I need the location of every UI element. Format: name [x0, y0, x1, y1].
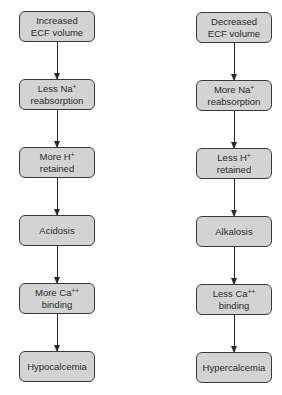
node-hypercalcemia: Hypercalcemia — [196, 352, 272, 383]
node-text: Increased — [36, 15, 78, 26]
node-text: reabsorption — [208, 96, 261, 107]
node-more-ca-binding: More Ca++ binding — [19, 283, 95, 314]
node-hypocalcemia: Hypocalcemia — [19, 351, 95, 382]
node-text: More Na — [214, 84, 250, 95]
superscript: + — [71, 151, 75, 158]
node-more-na-reabsorption: More Na+ reabsorption — [196, 80, 272, 111]
node-text: reabsorption — [31, 95, 84, 106]
superscript: ++ — [248, 288, 256, 295]
node-text: Less Na — [38, 83, 73, 94]
node-more-h-retained: More H+ retained — [19, 147, 95, 178]
node-text: Alkalosis — [215, 226, 253, 237]
arrow-down — [57, 110, 58, 147]
node-text: More H — [40, 151, 71, 162]
node-less-ca-binding: Less Ca++ binding — [196, 284, 272, 315]
superscript: + — [250, 84, 254, 91]
arrow-down — [234, 43, 235, 80]
arrow-down — [57, 314, 58, 351]
node-text: binding — [219, 300, 250, 311]
superscript: + — [247, 152, 251, 159]
node-less-h-retained: Less H+ retained — [196, 148, 272, 179]
node-text: Acidosis — [39, 225, 74, 236]
node-text: More Ca — [35, 287, 71, 298]
superscript: ++ — [71, 287, 79, 294]
node-text: ECF volume — [208, 28, 260, 39]
node-text: retained — [217, 164, 251, 175]
node-text: binding — [42, 299, 73, 310]
node-less-na-reabsorption: Less Na+ reabsorption — [19, 79, 95, 110]
arrow-down — [234, 315, 235, 352]
node-text: Decreased — [211, 16, 257, 27]
superscript: + — [73, 83, 77, 90]
node-acidosis: Acidosis — [19, 215, 95, 246]
node-text: Hypocalcemia — [27, 361, 87, 372]
node-decreased-ecf-volume: Decreased ECF volume — [196, 12, 272, 43]
node-text: ECF volume — [31, 27, 83, 38]
arrow-down — [57, 246, 58, 283]
node-increased-ecf-volume: Increased ECF volume — [19, 11, 95, 42]
arrow-down — [57, 178, 58, 215]
arrow-down — [57, 42, 58, 79]
node-text: Hypercalcemia — [203, 362, 266, 373]
arrow-down — [234, 247, 235, 284]
node-text: retained — [40, 163, 74, 174]
arrow-down — [234, 111, 235, 148]
node-text: Less H — [217, 152, 247, 163]
node-alkalosis: Alkalosis — [196, 216, 272, 247]
arrow-down — [234, 179, 235, 216]
node-text: Less Ca — [213, 288, 248, 299]
